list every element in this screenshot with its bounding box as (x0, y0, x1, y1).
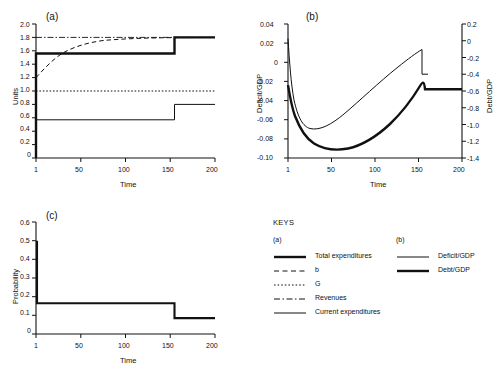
panel-a-ytick-8: 1.6 (20, 47, 30, 54)
series-total-expenditures (36, 37, 215, 158)
panel-b-ylabel-right: Debt/GDP (485, 79, 494, 113)
series-current-expenditures (36, 104, 215, 158)
figure-canvas: (a) Units Time 2.0 1.8 1.6 1.4 1.2 1.0 0… (0, 0, 498, 376)
panel-a-ytick-4: 0.8 (20, 99, 30, 106)
panel-b-xtick-3: 150 (411, 166, 423, 173)
panel-c-tag: (c) (46, 210, 58, 221)
panel-b-ytick-r3: -0.4 (467, 71, 479, 78)
keys-group-a-label: (a) (273, 236, 282, 243)
series-probability (37, 241, 215, 318)
panel-b-ytick-l7: -0.10 (257, 154, 273, 161)
keys-legend: KEYS (a) Total expenditures b G Rev (248, 196, 498, 376)
key-label-debt-gdp: Debt/GDP (438, 266, 470, 273)
panel-a-ytick-9: 1.8 (20, 34, 30, 41)
keys-group-b-label: (b) (396, 236, 405, 243)
key-label-current-expenditures: Current expenditures (315, 308, 380, 315)
key-swatch-dash-dot (273, 294, 307, 304)
panel-b-xtick-0: 1 (286, 166, 290, 173)
panel-a-ytick-6: 1.2 (20, 73, 30, 80)
panel-b: (b) Deficit/GDP Debt/GDP Time 0.04 0.02 … (248, 0, 498, 196)
panel-c-plot (0, 196, 248, 376)
panel-c-xtick-2: 100 (118, 342, 130, 349)
panel-b-ytick-l3: -0.02 (257, 78, 273, 85)
key-swatch-dashed (273, 266, 307, 276)
panel-c: (c) Probability Time 0.6 0.5 0.4 0.3 0.2… (0, 196, 248, 376)
panel-b-ytick-l1: 0.02 (260, 40, 274, 47)
panel-a-ytick-1: 0.2 (20, 138, 30, 145)
key-label-revenues: Revenues (315, 294, 347, 301)
panel-c-ytick-4: 0.4 (20, 255, 30, 262)
key-swatch-thin-solid-b (396, 252, 430, 262)
panel-b-ytick-l5: -0.06 (257, 116, 273, 123)
panel-b-ytick-r4: -0.6 (467, 88, 479, 95)
key-swatch-dotted (273, 280, 307, 290)
key-swatch-thick-solid (273, 252, 307, 262)
panel-c-ytick-0: 0 (27, 327, 31, 334)
panel-c-ytick-2: 0.2 (20, 291, 30, 298)
panel-c-ytick-1: 0.1 (20, 309, 30, 316)
panel-b-xlabel: Time (370, 180, 386, 189)
key-swatch-thick-solid-b (396, 266, 430, 276)
panel-a-xtick-2: 100 (118, 166, 130, 173)
panel-c-ytick-6: 0.6 (20, 219, 30, 226)
panel-b-ytick-l0: 0.04 (260, 21, 274, 28)
panel-c-xtick-1: 50 (75, 342, 83, 349)
panel-a-xtick-0: 1 (34, 166, 38, 173)
panel-b-ytick-r7: -1.2 (467, 138, 479, 145)
keys-title: KEYS (273, 218, 294, 227)
panel-b-ytick-l6: -0.08 (257, 135, 273, 142)
panel-a-ytick-3: 0.6 (20, 112, 30, 119)
panel-c-ylabel: Probability (11, 269, 20, 304)
series-deficit-gdp (288, 39, 422, 129)
key-label-deficit-gdp: Deficit/GDP (438, 252, 475, 259)
panel-a-ytick-5: 1.0 (20, 86, 30, 93)
panel-a-ytick-2: 0.4 (20, 125, 30, 132)
panel-a-ylabel: Units (11, 88, 20, 105)
panel-a-xtick-3: 150 (162, 166, 174, 173)
panel-c-xtick-4: 200 (206, 342, 218, 349)
panel-b-ytick-r5: -0.8 (467, 105, 479, 112)
panel-a: (a) Units Time 2.0 1.8 1.6 1.4 1.2 1.0 0… (0, 0, 248, 196)
panel-a-tag: (a) (46, 11, 58, 22)
panel-a-xtick-1: 50 (75, 166, 83, 173)
key-swatch-thin-solid (273, 308, 307, 318)
key-label-g: G (315, 280, 320, 287)
panel-b-xtick-1: 50 (327, 166, 335, 173)
panel-a-xtick-4: 200 (206, 166, 218, 173)
panel-b-ytick-r0: 0.2 (467, 21, 477, 28)
panel-a-ytick-7: 1.4 (20, 60, 30, 67)
panel-b-ytick-r8: -1.4 (467, 155, 479, 162)
panel-a-ytick-0: 0 (27, 151, 31, 158)
panel-c-ytick-5: 0.5 (20, 237, 30, 244)
key-label-total-expenditures: Total expenditures (315, 252, 372, 259)
panel-b-tag: (b) (306, 11, 318, 22)
key-label-b: b (315, 266, 319, 273)
panel-b-xtick-2: 100 (369, 166, 381, 173)
series-b (36, 38, 215, 78)
panel-c-xtick-0: 1 (34, 342, 38, 349)
panel-b-xtick-4: 200 (453, 166, 465, 173)
series-deficit-gdp-step (422, 50, 428, 75)
panel-b-ytick-l4: -0.04 (257, 97, 273, 104)
panel-b-ytick-r6: -1.0 (467, 122, 479, 129)
panel-a-xlabel: Time (120, 180, 136, 189)
panel-b-ytick-r1: 0 (467, 38, 471, 45)
panel-a-ytick-10: 2.0 (20, 21, 30, 28)
series-debt-gdp (288, 83, 462, 150)
panel-c-xtick-3: 150 (162, 342, 174, 349)
panel-c-xlabel: Time (120, 356, 136, 365)
panel-c-ytick-3: 0.3 (20, 273, 30, 280)
panel-b-ytick-l2: 0 (274, 59, 278, 66)
panel-b-ytick-r2: -0.2 (467, 55, 479, 62)
